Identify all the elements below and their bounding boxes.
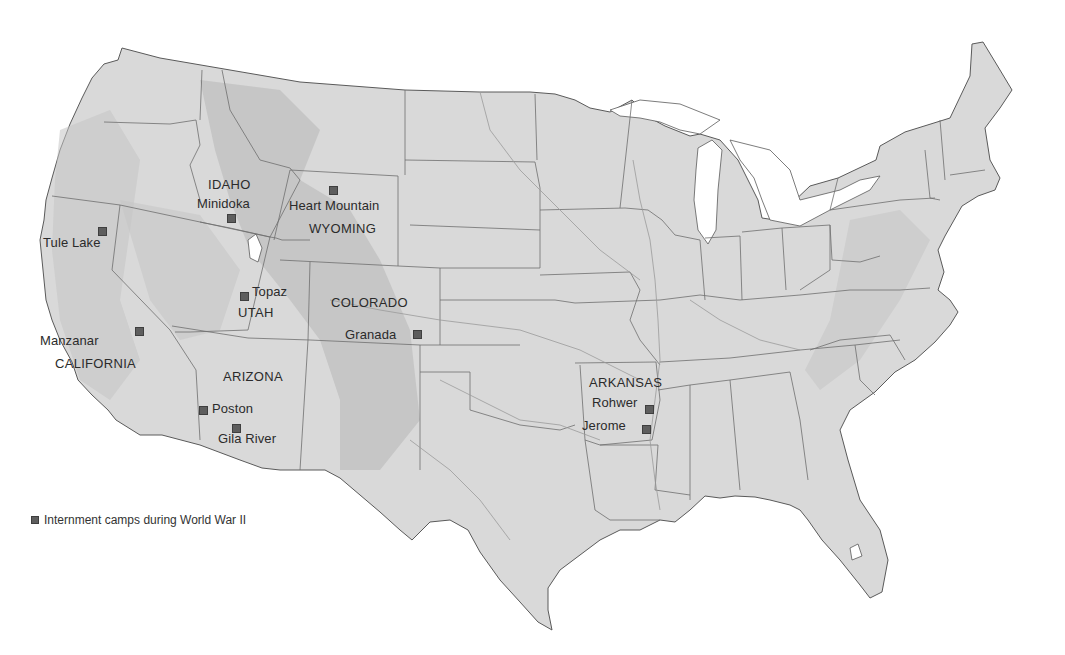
camp-marker-icon	[413, 330, 422, 339]
map-legend: Internment camps during World War II	[31, 513, 246, 527]
camp-marker-icon	[329, 186, 338, 195]
camp-label-rohwer: Rohwer	[592, 396, 637, 409]
camp-label-jerome: Jerome	[582, 419, 626, 432]
camp-label-heart-mountain: Heart Mountain	[289, 199, 379, 212]
state-label-idaho: IDAHO	[208, 178, 251, 191]
state-label-colorado: COLORADO	[331, 296, 408, 309]
camp-label-tule-lake: Tule Lake	[43, 236, 101, 249]
camp-label-topaz: Topaz	[252, 285, 287, 298]
camp-marker-icon	[227, 214, 236, 223]
state-label-arkansas: ARKANSAS	[589, 376, 662, 389]
camp-marker-icon	[240, 292, 249, 301]
state-label-utah: UTAH	[238, 306, 274, 319]
us-relief-map	[0, 0, 1065, 655]
state-label-california: CALIFORNIA	[55, 357, 136, 370]
camp-label-poston: Poston	[212, 402, 253, 415]
camp-label-manzanar: Manzanar	[40, 334, 99, 347]
camp-label-minidoka: Minidoka	[197, 197, 250, 210]
camp-label-granada: Granada	[345, 328, 396, 341]
camp-marker-icon	[199, 406, 208, 415]
legend-label: Internment camps during World War II	[44, 513, 246, 527]
state-label-wyoming: WYOMING	[309, 222, 376, 235]
camp-marker-icon	[135, 327, 144, 336]
camp-marker-icon	[645, 405, 654, 414]
camp-label-gila-river: Gila River	[218, 432, 276, 445]
camp-marker-icon	[642, 425, 651, 434]
square-marker-icon	[31, 516, 39, 524]
state-label-arizona: ARIZONA	[223, 370, 283, 383]
